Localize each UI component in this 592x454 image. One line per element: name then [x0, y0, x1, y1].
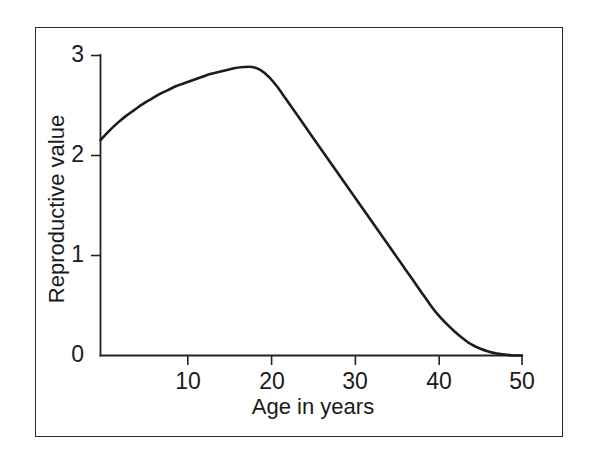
x-tick-label-40: 40: [412, 370, 466, 393]
figure-root: 3 2 1 0 10 20 30 40 50 Age in years Repr…: [0, 0, 592, 454]
x-tick-label-50: 50: [495, 370, 549, 393]
x-tick-label-20: 20: [245, 370, 299, 393]
y-tick-label-3: 3: [50, 43, 84, 66]
x-tick-label-10: 10: [161, 370, 215, 393]
x-tick-label-30: 30: [328, 370, 382, 393]
reproductive-value-curve: [101, 67, 523, 356]
y-axis-title: Reproductive value: [44, 99, 70, 319]
x-axis-title: Age in years: [103, 394, 523, 420]
y-tick-label-0: 0: [50, 343, 84, 366]
